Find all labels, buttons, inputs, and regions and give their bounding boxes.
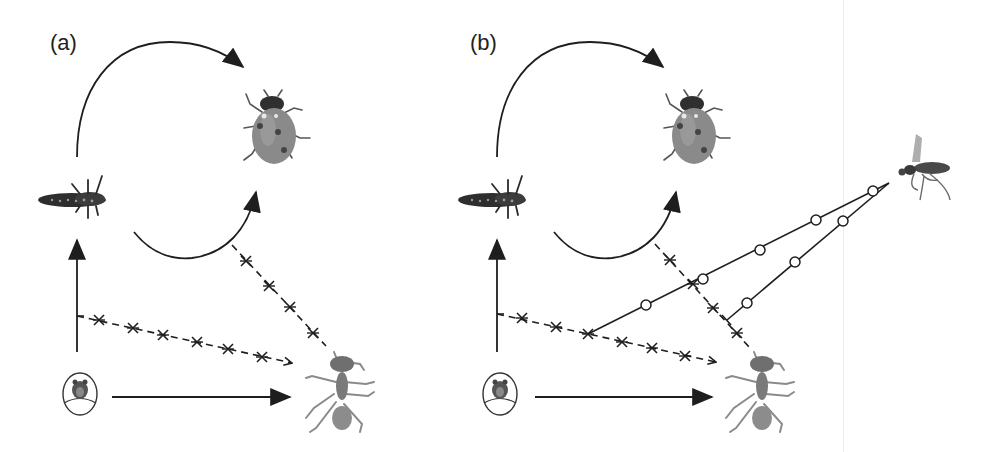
egg-image xyxy=(483,373,517,415)
lower-arc xyxy=(554,192,676,258)
lower-arc xyxy=(134,192,256,258)
wasp-line-to-dashed-a xyxy=(588,183,889,334)
adult-ladybird-image xyxy=(244,90,310,164)
panel-b xyxy=(458,42,950,432)
circle-markers xyxy=(641,186,878,310)
ant-image xyxy=(726,352,794,432)
larva-image xyxy=(458,176,526,218)
adult-ladybird-image xyxy=(664,90,730,164)
dashed-vertical-to-ant xyxy=(77,316,292,363)
parasitoid-wasp-image xyxy=(899,134,951,200)
diagram-svg xyxy=(0,0,984,452)
arc-larva-to-adult xyxy=(497,42,663,157)
figure-canvas: (a) (b) xyxy=(0,0,984,452)
larva-image xyxy=(38,176,106,218)
arc-larva-to-adult xyxy=(77,42,243,157)
panel-a xyxy=(38,42,374,432)
ant-image xyxy=(306,352,374,432)
egg-image xyxy=(63,373,97,415)
